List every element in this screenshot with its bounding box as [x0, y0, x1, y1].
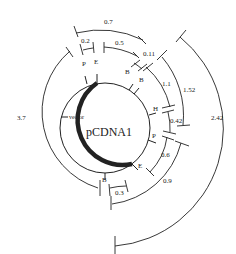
fragment-arc-0.2 — [83, 48, 93, 50]
site-label: H — [153, 105, 158, 113]
svg-text:2.42: 2.42 — [211, 114, 224, 122]
vector-label: vector — [69, 114, 84, 120]
fragment-arc-0.3 — [110, 186, 126, 188]
svg-text:3.7: 3.7 — [17, 114, 26, 122]
svg-text:1.52: 1.52 — [183, 86, 196, 94]
fragment-arc-1.52 — [162, 57, 184, 125]
site-label: B — [139, 76, 144, 84]
site-tick-b1 — [129, 84, 133, 90]
svg-text:1.1: 1.1 — [162, 80, 171, 88]
svg-text:0.5: 0.5 — [115, 39, 124, 47]
svg-text:0.11: 0.11 — [143, 50, 155, 58]
site-label: B — [125, 68, 130, 76]
site-tick-p1 — [85, 76, 87, 84]
svg-text:0.9: 0.9 — [163, 177, 172, 185]
plasmid-name: pCDNA1 — [86, 125, 132, 139]
site-tick-h — [149, 113, 156, 115]
fragment-arc-0.5 — [104, 47, 137, 56]
svg-text:0.2: 0.2 — [81, 37, 90, 45]
svg-text:0.7: 0.7 — [104, 18, 113, 26]
site-label: P — [152, 132, 156, 140]
site-tick-b2 — [134, 88, 139, 94]
site-label: E — [94, 58, 98, 66]
svg-text:0.6: 0.6 — [161, 151, 170, 159]
site-tick-p2 — [148, 140, 156, 143]
site-label: E — [138, 162, 142, 170]
fragment-arcs — [42, 26, 223, 254]
site-label: P — [82, 60, 86, 68]
svg-text:0.42: 0.42 — [170, 117, 183, 125]
fragment-arc-2.42 — [115, 37, 223, 246]
plasmid-map: vector pCDNA1 P E B B H P E B — [0, 0, 236, 254]
vector-segment — [78, 83, 132, 165]
site-label: B — [102, 176, 107, 184]
svg-text:0.3: 0.3 — [115, 189, 124, 197]
